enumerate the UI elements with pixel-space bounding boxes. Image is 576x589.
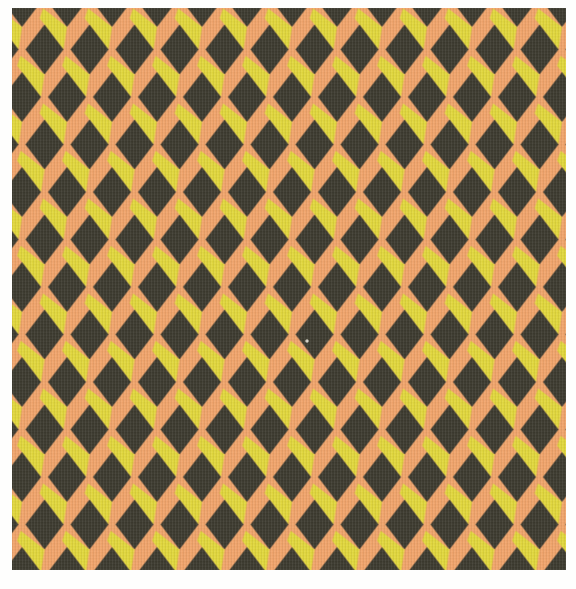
pattern-fill-area: [12, 8, 566, 570]
fabric-swatch: [12, 8, 566, 570]
pattern-svg: [12, 8, 566, 570]
photo-page: [0, 0, 576, 589]
white-speck-defect: [305, 339, 308, 342]
